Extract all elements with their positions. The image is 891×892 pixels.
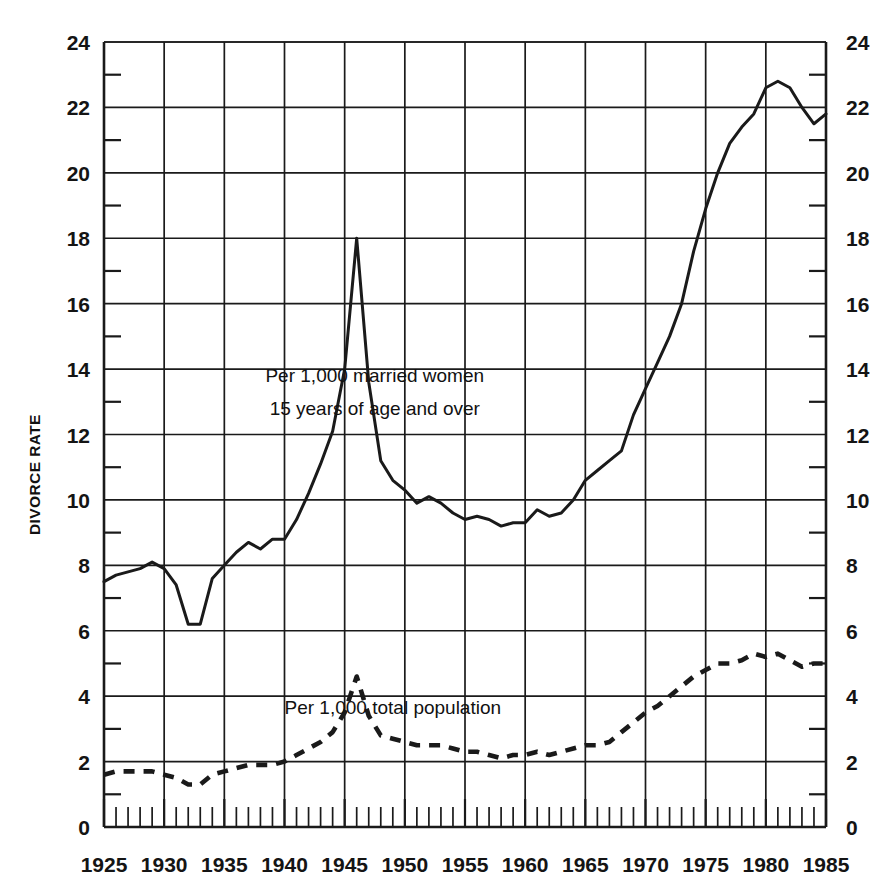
x-tick-label: 1975 bbox=[682, 853, 729, 876]
y-tick-label-right: 8 bbox=[846, 554, 858, 577]
divorce-rate-line-chart: 024681012141618202224 024681012141618202… bbox=[0, 0, 891, 892]
y-tick-label-left: 4 bbox=[78, 685, 90, 708]
x-tick-label: 1980 bbox=[742, 853, 789, 876]
y-tick-label-left: 2 bbox=[78, 751, 90, 774]
y-tick-label-left: 18 bbox=[67, 227, 91, 250]
y-tick-label-right: 10 bbox=[846, 489, 869, 512]
y-tick-label-left: 16 bbox=[67, 293, 90, 316]
y-tick-label-left: 10 bbox=[67, 489, 90, 512]
x-tick-label: 1945 bbox=[321, 853, 368, 876]
x-tick-label: 1965 bbox=[562, 853, 609, 876]
y-tick-label-left: 20 bbox=[67, 162, 90, 185]
x-tick-label: 1950 bbox=[381, 853, 428, 876]
annotation-text: Per 1,000 married women bbox=[265, 365, 484, 386]
chart-background bbox=[0, 0, 891, 892]
y-tick-label-right: 22 bbox=[846, 96, 869, 119]
y-tick-label-right: 12 bbox=[846, 424, 869, 447]
y-tick-label-left: 0 bbox=[78, 816, 90, 839]
y-tick-label-left: 24 bbox=[67, 31, 91, 54]
y-tick-label-left: 6 bbox=[78, 620, 90, 643]
y-tick-label-right: 6 bbox=[846, 620, 858, 643]
x-tick-label: 1930 bbox=[141, 853, 188, 876]
y-tick-label-left: 14 bbox=[67, 358, 91, 381]
x-tick-label: 1940 bbox=[261, 853, 308, 876]
annotation-text: Per 1,000 total population bbox=[285, 697, 502, 718]
chart-figure: 024681012141618202224 024681012141618202… bbox=[0, 0, 891, 892]
y-tick-label-right: 2 bbox=[846, 751, 858, 774]
y-tick-label-right: 14 bbox=[846, 358, 870, 381]
x-tick-label: 1925 bbox=[81, 853, 128, 876]
annotation-text: 15 years of age and over bbox=[270, 398, 481, 419]
y-tick-label-right: 4 bbox=[846, 685, 858, 708]
x-tick-label: 1935 bbox=[201, 853, 248, 876]
y-tick-label-right: 18 bbox=[846, 227, 870, 250]
x-tick-label: 1970 bbox=[622, 853, 669, 876]
y-tick-label-right: 20 bbox=[846, 162, 869, 185]
x-tick-label: 1955 bbox=[442, 853, 489, 876]
y-tick-label-left: 8 bbox=[78, 554, 90, 577]
x-tick-label: 1960 bbox=[502, 853, 549, 876]
y-axis-title: DIVORCE RATE bbox=[26, 414, 43, 535]
y-tick-label-left: 22 bbox=[67, 96, 90, 119]
y-tick-label-right: 16 bbox=[846, 293, 869, 316]
x-tick-label: 1985 bbox=[803, 853, 850, 876]
y-tick-label-right: 0 bbox=[846, 816, 858, 839]
y-tick-label-left: 12 bbox=[67, 424, 90, 447]
y-tick-label-right: 24 bbox=[846, 31, 870, 54]
